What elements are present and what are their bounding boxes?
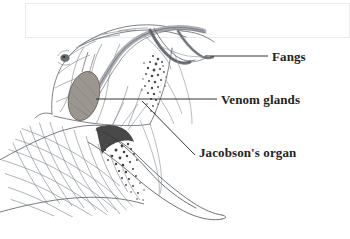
eye <box>61 55 69 62</box>
snake-anatomy-figure: Fangs Venom glands Jacobson's organ <box>0 0 350 239</box>
leader-jacobsons-organ <box>142 101 195 155</box>
label-venom-glands: Venom glands <box>221 93 300 106</box>
venom-duct <box>86 27 206 110</box>
mouth-interior <box>140 48 192 196</box>
snake-head-illustration <box>0 0 350 239</box>
scan-frame <box>26 4 350 38</box>
upper-jaw <box>35 25 214 126</box>
label-jacobsons-organ: Jacobson's organ <box>199 146 296 159</box>
label-fangs: Fangs <box>272 50 306 63</box>
venom-gland <box>63 52 104 124</box>
palate-tissue-stipple <box>141 55 166 114</box>
